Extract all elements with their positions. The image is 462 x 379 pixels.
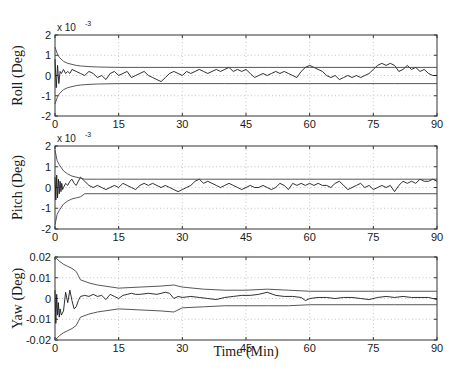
roll-exponent-label: x 10 [57,22,76,33]
yaw-ytick-label: -0.01 [26,313,51,325]
pitch-xtick-label: 60 [304,231,316,243]
pitch-xtick-label: 75 [367,231,379,243]
roll-exponent-power: -3 [85,20,91,27]
roll-xtick-label: 90 [431,118,443,130]
roll-xtick-label: 75 [367,118,379,130]
x-axis-label: Time (Min) [213,344,279,360]
roll-y-axis-label: Roll (Deg) [10,45,26,106]
pitch-xtick-label: 0 [52,231,58,243]
pitch-ytick-label: -1 [41,202,51,214]
roll-subplot: 0153045607590-2-1012x 10-3Roll (Deg) [10,20,443,130]
pitch-ytick-label: 0 [45,182,51,194]
yaw-ytick-label: 0 [45,293,51,305]
pitch-exponent-label: x 10 [57,133,76,144]
pitch-ytick-label: -2 [41,223,51,235]
pitch-xtick-label: 15 [113,231,125,243]
pitch-ytick-label: 2 [45,140,51,152]
yaw-xtick-label: 0 [52,342,58,354]
roll-xtick-label: 60 [304,118,316,130]
pitch-xtick-label: 90 [431,231,443,243]
yaw-ytick-label: 0.01 [30,272,51,284]
yaw-ytick-label: 0.02 [30,251,51,263]
attitude-error-figure: 0153045607590-2-1012x 10-3Roll (Deg) 015… [0,0,462,379]
roll-ytick-label: 1 [45,49,51,61]
roll-ytick-label: -2 [41,110,51,122]
yaw-xtick-label: 60 [304,342,316,354]
yaw-y-axis-label: Yaw (Deg) [10,268,26,330]
roll-axes-frame [55,35,437,116]
pitch-xtick-label: 45 [240,231,252,243]
roll-ytick-label: -1 [41,90,51,102]
pitch-ytick-label: 1 [45,161,51,173]
pitch-xtick-label: 30 [176,231,188,243]
roll-xtick-label: 0 [52,118,58,130]
roll-ytick-label: 2 [45,29,51,41]
yaw-xtick-label: 75 [367,342,379,354]
roll-xtick-label: 15 [113,118,125,130]
yaw-ytick-label: -0.02 [26,334,51,346]
roll-ytick-label: 0 [45,70,51,82]
roll-xtick-label: 45 [240,118,252,130]
pitch-exponent-power: -3 [85,131,91,138]
roll-xtick-label: 30 [176,118,188,130]
pitch-subplot: 0153045607590-2-1012x 10-3Pitch (Deg) [10,131,443,243]
yaw-xtick-label: 30 [176,342,188,354]
yaw-xtick-label: 90 [431,342,443,354]
yaw-xtick-label: 15 [113,342,125,354]
pitch-y-axis-label: Pitch (Deg) [10,155,26,220]
yaw-subplot: 0153045607590-0.02-0.0100.010.02Yaw (Deg… [10,251,443,354]
